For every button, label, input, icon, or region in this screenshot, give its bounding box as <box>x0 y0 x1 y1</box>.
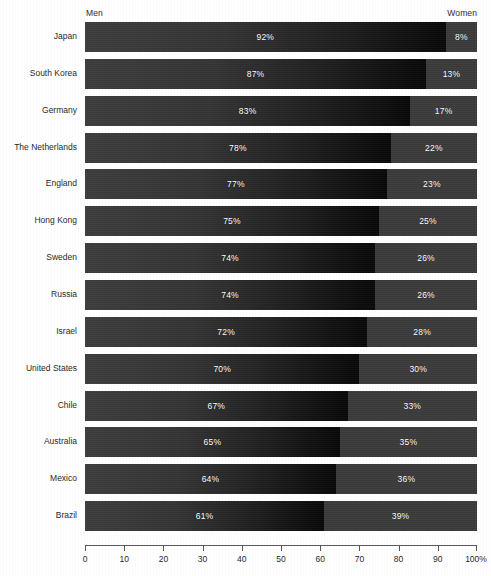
bar-value-women: 33% <box>403 401 421 411</box>
bar-segment-men: 74% <box>85 243 375 273</box>
axis-tick <box>163 545 164 551</box>
bar-value-women: 35% <box>400 437 418 447</box>
bar-value-men: 67% <box>208 401 226 411</box>
axis-tick-label: 80 <box>394 554 403 564</box>
category-label: The Netherlands <box>14 142 77 152</box>
bar-row: 72%28% <box>85 317 477 347</box>
axis-tick-label: 90 <box>433 554 442 564</box>
bar-segment-women: 28% <box>367 317 477 347</box>
bar-segment-men: 74% <box>85 280 375 310</box>
bar-segment-men: 92% <box>85 22 446 52</box>
axis-tick <box>320 545 321 551</box>
axis-tick <box>359 545 360 551</box>
bar-row: 61%39% <box>85 501 477 531</box>
bar-segment-men: 72% <box>85 317 367 347</box>
category-label: England <box>46 178 77 188</box>
axis-tick <box>476 545 477 551</box>
bar-segment-men: 65% <box>85 427 340 457</box>
bar-row: 87%13% <box>85 59 477 89</box>
axis-tick-label: 30 <box>198 554 207 564</box>
bar-value-women: 26% <box>417 253 435 263</box>
bar-value-men: 75% <box>223 216 241 226</box>
bar-segment-women: 26% <box>375 280 477 310</box>
axis-tick <box>242 545 243 551</box>
bar-segment-women: 26% <box>375 243 477 273</box>
bar-segment-men: 70% <box>85 354 359 384</box>
bar-value-men: 72% <box>217 327 235 337</box>
category-label: Mexico <box>50 473 77 483</box>
bar-segment-men: 61% <box>85 501 324 531</box>
category-label: Sweden <box>46 252 77 262</box>
bar-segment-women: 13% <box>426 59 477 89</box>
bar-value-men: 64% <box>202 474 220 484</box>
bar-segment-women: 8% <box>446 22 477 52</box>
bar-value-men: 92% <box>257 32 275 42</box>
bar-segment-men: 64% <box>85 464 336 494</box>
category-label: United States <box>26 363 77 373</box>
bar-value-men: 77% <box>227 179 245 189</box>
axis-tick-label: 0 <box>83 554 88 564</box>
bar-row: 70%30% <box>85 354 477 384</box>
axis-tick <box>399 545 400 551</box>
legend-label-men: Men <box>86 8 103 18</box>
bar-value-women: 36% <box>398 474 416 484</box>
bar-value-men: 87% <box>247 69 265 79</box>
category-label: Chile <box>58 400 77 410</box>
legend-label-women: Women <box>447 8 477 18</box>
axis-tick <box>438 545 439 551</box>
bar-segment-women: 35% <box>340 427 477 457</box>
axis-tick-label: 10 <box>119 554 128 564</box>
bar-segment-men: 83% <box>85 96 410 126</box>
bar-row: 65%35% <box>85 427 477 457</box>
bar-segment-men: 75% <box>85 206 379 236</box>
category-label: Brazil <box>56 510 77 520</box>
bar-value-women: 13% <box>443 69 461 79</box>
category-label: Israel <box>56 326 77 336</box>
category-label: South Korea <box>30 68 77 78</box>
bar-value-women: 23% <box>423 179 441 189</box>
bar-segment-men: 77% <box>85 169 387 199</box>
bar-segment-women: 39% <box>324 501 477 531</box>
axis-tick-label: 100% <box>465 554 487 564</box>
axis-tick-label: 60 <box>315 554 324 564</box>
bar-row: 77%23% <box>85 169 477 199</box>
bar-row: 75%25% <box>85 206 477 236</box>
bar-segment-women: 22% <box>391 133 477 163</box>
bar-value-men: 70% <box>213 364 231 374</box>
bar-segment-women: 33% <box>348 391 477 421</box>
category-label: Hong Kong <box>34 215 77 225</box>
bar-value-women: 30% <box>409 364 427 374</box>
value-axis: 0102030405060708090100% <box>85 545 477 575</box>
bar-segment-women: 17% <box>410 96 477 126</box>
bar-value-men: 83% <box>239 106 257 116</box>
axis-tick <box>85 545 86 551</box>
bar-value-women: 8% <box>455 32 468 42</box>
plot-area: 92%8%87%13%83%17%78%22%77%23%75%25%74%26… <box>85 22 477 538</box>
bar-row: 64%36% <box>85 464 477 494</box>
bar-value-women: 25% <box>419 216 437 226</box>
bar-segment-men: 87% <box>85 59 426 89</box>
axis-tick <box>281 545 282 551</box>
bar-value-women: 39% <box>392 511 410 521</box>
bar-row: 83%17% <box>85 96 477 126</box>
bar-segment-men: 67% <box>85 391 348 421</box>
axis-tick-label: 20 <box>159 554 168 564</box>
category-label: Germany <box>42 105 77 115</box>
stacked-bar-chart: Men Women JapanSouth KoreaGermanyThe Net… <box>0 0 491 576</box>
axis-tick-label: 50 <box>276 554 285 564</box>
category-axis-labels: JapanSouth KoreaGermanyThe NetherlandsEn… <box>0 22 77 538</box>
bar-segment-women: 30% <box>359 354 477 384</box>
bar-row: 67%33% <box>85 391 477 421</box>
bar-segment-women: 25% <box>379 206 477 236</box>
axis-tick <box>203 545 204 551</box>
bar-value-men: 61% <box>196 511 214 521</box>
bar-value-women: 22% <box>425 143 443 153</box>
bar-value-men: 74% <box>221 290 239 300</box>
bar-segment-men: 78% <box>85 133 391 163</box>
bar-value-men: 65% <box>204 437 222 447</box>
axis-tick <box>124 545 125 551</box>
bar-value-women: 17% <box>435 106 453 116</box>
bar-value-women: 28% <box>413 327 431 337</box>
bar-value-women: 26% <box>417 290 435 300</box>
bar-row: 74%26% <box>85 243 477 273</box>
